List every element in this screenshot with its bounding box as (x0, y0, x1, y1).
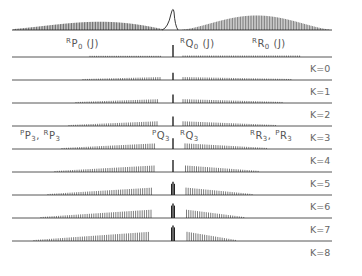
label-rr0: RR0 (J) (252, 38, 286, 51)
spectrum-figure: RP0 (J) RQ0 (J) RR0 (J) PP3, RP3 PQ3 RQ3… (0, 0, 362, 276)
label-rq0: RQ0 (J) (180, 38, 215, 51)
k-label-2: K=2 (310, 110, 330, 120)
label-pp3-rp3: PP3, RP3 (20, 130, 60, 143)
k-label-6: K=6 (310, 202, 330, 212)
k-label-8: K=8 (310, 248, 330, 258)
label-pq3: PQ3 (152, 130, 170, 143)
label-rr3-pr3: RR3, PR3 (250, 130, 292, 143)
k-label-0: K=0 (310, 64, 330, 74)
k-label-5: K=5 (310, 179, 330, 189)
k-label-3: K=3 (310, 133, 330, 143)
k-label-1: K=1 (310, 87, 330, 97)
k-label-7: K=7 (310, 225, 330, 235)
k-label-4: K=4 (310, 156, 330, 166)
label-rp0: RP0 (J) (66, 38, 99, 51)
label-rq3: RQ3 (180, 130, 199, 143)
